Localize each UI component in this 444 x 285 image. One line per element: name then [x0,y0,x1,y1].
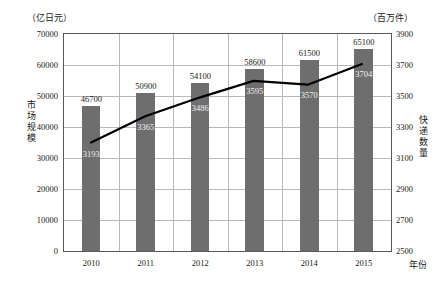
line-label-2012: 3486 [180,103,220,113]
right-tick-2500: 2500 [396,246,436,256]
bar-label-2010: 46700 [64,94,118,104]
dual-axis-chart: （亿日元） （百万件） 市场规模 快递数量 010000200003000040… [0,0,444,285]
left-tick-0: 0 [14,246,58,256]
right-tick-3300: 3300 [396,122,436,132]
line-label-2014: 3570 [289,90,329,100]
x-tick-2012: 2012 [175,258,225,268]
bar-label-2012: 54100 [173,71,227,81]
line-label-2011: 3365 [126,122,166,132]
right-tick-2900: 2900 [396,184,436,194]
bar-label-2013: 58600 [228,57,282,67]
right-tick-2700: 2700 [396,215,436,225]
x-tick-2013: 2013 [230,258,280,268]
x-axis-title: 年份 [409,258,427,271]
x-tick-2010: 2010 [66,258,116,268]
right-tick-3700: 3700 [396,60,436,70]
line-label-2015: 3704 [344,69,384,79]
left-tick-40000: 40000 [14,122,58,132]
line-label-2013: 3595 [235,86,275,96]
left-tick-20000: 20000 [14,184,58,194]
right-tick-3500: 3500 [396,91,436,101]
bar-label-2014: 61500 [282,48,336,58]
x-tick-2014: 2014 [284,258,334,268]
x-tick-2015: 2015 [339,258,389,268]
right-axis-unit-caption: （百万件） [368,11,413,24]
right-tick-3100: 3100 [396,153,436,163]
left-tick-50000: 50000 [14,91,58,101]
bar-label-2011: 50900 [119,81,173,91]
x-tick-2011: 2011 [121,258,171,268]
left-tick-30000: 30000 [14,153,58,163]
left-tick-70000: 70000 [14,29,58,39]
right-tick-3900: 3900 [396,29,436,39]
line-label-2010: 3193 [71,149,111,159]
left-tick-10000: 10000 [14,215,58,225]
bar-label-2015: 65100 [337,37,391,47]
left-tick-60000: 60000 [14,60,58,70]
left-axis-unit-caption: （亿日元） [27,11,72,24]
